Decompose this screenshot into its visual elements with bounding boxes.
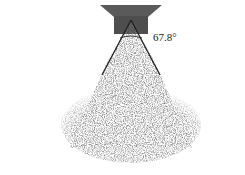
spray-angle-label: 67.8° [153,31,177,43]
spray-figure: 67.8° [0,0,245,175]
spray-cloud [61,22,201,163]
figure-caption [86,162,176,170]
spray-illustration [0,0,245,175]
